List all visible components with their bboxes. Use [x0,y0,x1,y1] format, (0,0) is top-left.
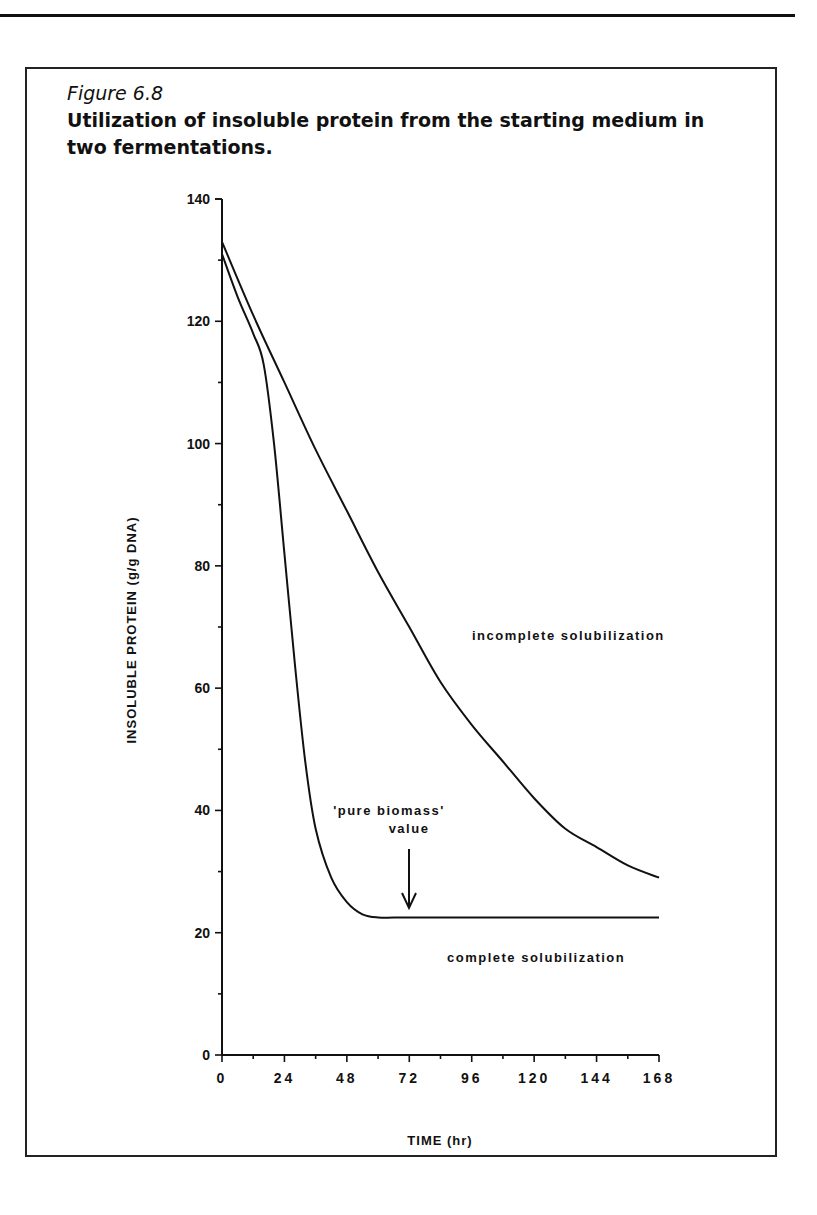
x-tick-label: 144 [580,1070,612,1086]
x-tick-label: 0 [217,1070,228,1086]
label-incomplete-solubilization: incomplete solubilization [472,628,665,643]
arrow-down-icon [402,849,416,908]
y-tick-label: 20 [194,925,210,941]
complete-solubilization-line [222,254,659,918]
label-pure-biomass: 'pure biomass' [333,803,445,818]
y-tick-label: 120 [187,313,211,329]
label-complete-solubilization: complete solubilization [447,950,625,965]
line-chart: 020406080100120140024487296120144168 INS… [0,0,817,1215]
x-tick-label: 72 [398,1070,420,1086]
x-tick-label: 48 [336,1070,358,1086]
x-tick-label: 168 [643,1070,675,1086]
y-tick-label: 80 [194,558,210,574]
y-tick-label: 140 [187,191,211,207]
y-tick-label: 40 [194,802,210,818]
y-tick-label: 60 [194,680,210,696]
x-tick-label: 120 [518,1070,550,1086]
label-pure-biomass-value: value [389,821,430,836]
x-axis-title: TIME (hr) [407,1133,472,1148]
y-axis-title: INSOLUBLE PROTEIN (g/g DNA) [124,516,139,743]
incomplete-solubilization-line [222,242,659,878]
x-tick-label: 24 [274,1070,296,1086]
y-tick-label: 0 [202,1047,210,1063]
x-tick-label: 96 [461,1070,483,1086]
y-tick-label: 100 [187,436,211,452]
